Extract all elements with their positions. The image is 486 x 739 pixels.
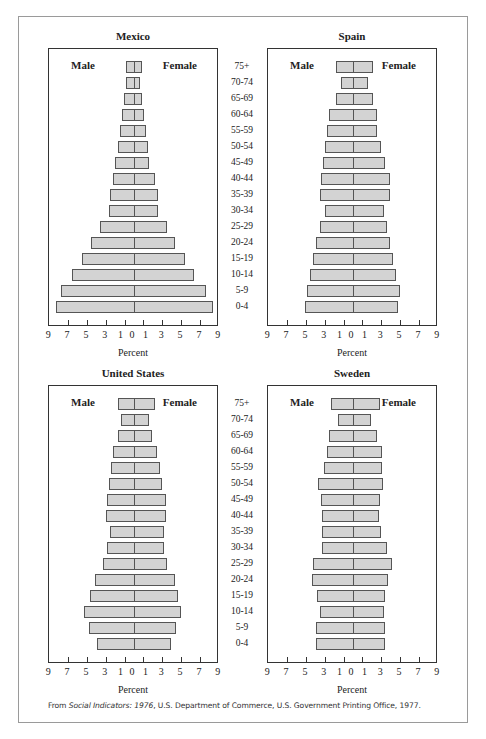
x-tick-label: 3 <box>98 666 112 677</box>
bar-male-30-34 <box>107 542 135 554</box>
plot-area: Male Female <box>48 385 218 663</box>
bar-female-30-34 <box>134 205 158 217</box>
x-tick <box>419 320 420 325</box>
source-citation: From Social Indicators: 1976, U.S. Depar… <box>48 701 421 710</box>
x-tick-label: 9 <box>41 666 55 677</box>
panel-title: Mexico <box>48 30 218 42</box>
bar-female-20-24 <box>353 574 388 586</box>
bar-male-25-29 <box>313 558 353 570</box>
panel-united-states: United States Male Female Percent 975310… <box>48 385 218 695</box>
bar-female-55-59 <box>134 125 146 137</box>
bar-female-75+ <box>353 398 380 410</box>
x-axis-label: Percent <box>48 684 218 695</box>
x-tick <box>381 657 382 662</box>
bar-male-50-54 <box>318 478 353 490</box>
bar-male-65-69 <box>124 93 135 105</box>
bar-male-10-14 <box>84 606 135 618</box>
x-tick <box>181 657 182 662</box>
bar-male-30-34 <box>322 542 354 554</box>
female-label: Female <box>382 396 416 408</box>
bar-male-40-44 <box>113 173 134 185</box>
bar-female-15-19 <box>134 253 185 265</box>
plot-area: Male Female <box>267 48 437 326</box>
x-tick-label: 3 <box>154 666 168 677</box>
panel-title: United States <box>48 367 218 379</box>
age-group-label: 65-69 <box>222 93 262 103</box>
bar-male-55-59 <box>324 462 354 474</box>
bar-female-60-64 <box>134 109 144 121</box>
bar-male-0-4 <box>56 301 135 313</box>
bar-male-25-29 <box>100 221 135 233</box>
age-group-label: 25-29 <box>222 221 262 231</box>
bar-female-30-34 <box>134 542 164 554</box>
x-tick <box>125 320 126 325</box>
age-group-label: 25-29 <box>222 558 262 568</box>
bar-male-70-74 <box>121 414 135 426</box>
x-tick-label: 5 <box>173 329 187 340</box>
x-tick-label: 0 <box>125 666 139 677</box>
age-group-label: 60-64 <box>222 109 262 119</box>
x-tick <box>68 657 69 662</box>
bar-female-55-59 <box>134 462 160 474</box>
bar-male-45-49 <box>321 494 354 506</box>
age-group-label: 0-4 <box>222 301 262 311</box>
bar-male-55-59 <box>120 125 135 137</box>
bar-male-40-44 <box>106 510 135 522</box>
x-tick <box>325 320 326 325</box>
bar-female-70-74 <box>353 414 371 426</box>
x-tick <box>419 657 420 662</box>
age-group-label: 45-49 <box>222 157 262 167</box>
x-tick <box>287 320 288 325</box>
bar-female-50-54 <box>353 478 383 490</box>
bar-male-75+ <box>331 398 354 410</box>
x-tick-label: 3 <box>98 329 112 340</box>
bar-female-35-39 <box>353 189 390 201</box>
panel-title: Spain <box>267 30 437 42</box>
x-tick-label: 0 <box>344 329 358 340</box>
x-tick-label: 5 <box>173 666 187 677</box>
bar-male-5-9 <box>307 285 354 297</box>
bar-male-45-49 <box>115 157 134 169</box>
age-group-label: 65-69 <box>222 430 262 440</box>
bar-male-30-34 <box>325 205 354 217</box>
bar-male-20-24 <box>312 574 354 586</box>
age-group-label: 5-9 <box>222 285 262 295</box>
bar-male-35-39 <box>110 526 134 538</box>
bar-female-70-74 <box>134 77 140 89</box>
x-tick <box>106 657 107 662</box>
bar-male-35-39 <box>322 526 354 538</box>
bar-male-5-9 <box>89 622 135 634</box>
bar-female-45-49 <box>134 494 166 506</box>
x-tick-label: 7 <box>192 666 206 677</box>
age-group-label: 40-44 <box>222 510 262 520</box>
bar-male-45-49 <box>323 157 354 169</box>
bar-female-70-74 <box>353 77 368 89</box>
bar-male-35-39 <box>110 189 134 201</box>
bar-male-65-69 <box>336 93 354 105</box>
bar-male-25-29 <box>320 221 354 233</box>
age-group-label: 35-39 <box>222 526 262 536</box>
x-tick-label: 9 <box>430 329 444 340</box>
x-tick-label: 5 <box>79 666 93 677</box>
x-tick-label: 5 <box>298 666 312 677</box>
bar-female-75+ <box>134 398 155 410</box>
bar-male-45-49 <box>107 494 135 506</box>
age-group-label: 40-44 <box>222 173 262 183</box>
bar-male-70-74 <box>341 77 354 89</box>
bar-female-25-29 <box>353 221 387 233</box>
panel-title: Sweden <box>267 367 437 379</box>
bar-female-45-49 <box>353 157 385 169</box>
x-tick-label: 3 <box>154 329 168 340</box>
bar-female-20-24 <box>353 237 390 249</box>
age-group-label: 20-24 <box>222 237 262 247</box>
bar-female-50-54 <box>134 478 162 490</box>
age-group-label: 30-34 <box>222 205 262 215</box>
x-tick <box>162 657 163 662</box>
bar-female-60-64 <box>353 446 382 458</box>
age-group-label: 55-59 <box>222 462 262 472</box>
x-tick-label: 7 <box>192 329 206 340</box>
bar-female-40-44 <box>134 173 155 185</box>
bar-male-55-59 <box>111 462 135 474</box>
x-tick <box>125 657 126 662</box>
male-label: Male <box>71 396 95 408</box>
